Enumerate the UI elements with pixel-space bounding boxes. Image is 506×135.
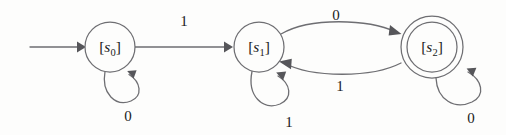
transition-s2-to-s1[interactable]: 1 bbox=[279, 59, 401, 94]
transition-s1-self-loop[interactable]: 1 bbox=[251, 72, 293, 131]
state-s2-close-bracket: ] bbox=[438, 38, 443, 55]
start-arrow bbox=[30, 42, 86, 53]
transition-s2-self-loop-line bbox=[436, 72, 481, 105]
transition-label-s0-self-loop: 0 bbox=[124, 108, 132, 124]
automaton-canvas: 1 0 0 1 1 0 bbox=[0, 0, 506, 135]
transition-s0-to-s1-arrow-head-icon bbox=[224, 42, 233, 53]
state-s0-close-bracket: ] bbox=[116, 38, 121, 55]
transition-s0-to-s1[interactable]: 1 bbox=[135, 13, 233, 52]
transition-label-s1-self-loop: 1 bbox=[285, 114, 293, 130]
state-node-s1[interactable]: [s1] bbox=[234, 22, 284, 72]
transition-s1-to-s2-arrow-head-icon bbox=[389, 25, 402, 36]
state-s1-close-bracket: ] bbox=[265, 38, 270, 55]
transition-s0-self-loop[interactable]: 0 bbox=[104, 70, 139, 124]
state-machine-diagram: 1 0 0 1 1 0 bbox=[0, 0, 506, 135]
transition-label-s2-to-s1: 1 bbox=[336, 78, 344, 94]
transition-s2-to-s1-line bbox=[284, 63, 401, 74]
state-node-s2[interactable]: [s2] bbox=[401, 16, 463, 78]
transition-label-s1-to-s2: 0 bbox=[332, 7, 340, 23]
transition-s1-to-s2[interactable]: 0 bbox=[281, 7, 402, 36]
transition-s2-to-s1-arrow-head-icon bbox=[279, 59, 292, 69]
state-node-s0[interactable]: [s0] bbox=[85, 22, 135, 72]
transition-s1-to-s2-line bbox=[281, 22, 396, 34]
transition-label-s2-self-loop: 0 bbox=[467, 110, 475, 126]
transition-label-s0-to-s1: 1 bbox=[180, 13, 188, 29]
